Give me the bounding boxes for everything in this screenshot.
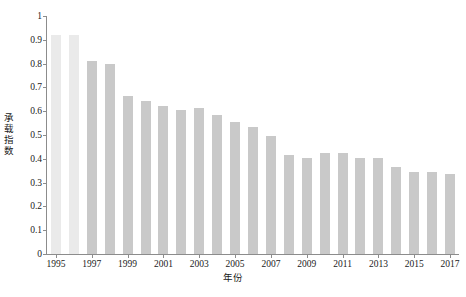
x-tick-label: 1999	[118, 259, 137, 270]
x-tick-mark	[128, 254, 129, 258]
bar	[320, 153, 330, 254]
x-tick-label: 2009	[297, 259, 316, 270]
bar	[176, 110, 186, 254]
y-tick-mark	[43, 87, 47, 88]
bar	[123, 96, 133, 254]
bar	[355, 158, 365, 254]
y-tick-mark	[43, 16, 47, 17]
x-tick-mark	[199, 254, 200, 258]
x-tick-mark	[450, 254, 451, 258]
y-tick-mark	[43, 111, 47, 112]
x-tick-mark	[343, 254, 344, 258]
y-tick-mark	[43, 206, 47, 207]
x-tick-mark	[378, 254, 379, 258]
x-tick-label: 2003	[190, 259, 209, 270]
bar	[194, 108, 204, 254]
y-tick-mark	[43, 159, 47, 160]
y-tick-mark	[43, 183, 47, 184]
bar	[212, 115, 222, 254]
bars-layer	[47, 16, 459, 254]
x-tick-mark	[92, 254, 93, 258]
x-tick-label: 2011	[333, 259, 352, 270]
bar	[158, 106, 168, 254]
x-tick-mark	[271, 254, 272, 258]
bar	[69, 35, 79, 254]
bar	[284, 155, 294, 254]
bar	[338, 153, 348, 254]
bar	[391, 167, 401, 254]
plot-area: 00.10.20.30.40.50.60.70.80.91 1995199719…	[46, 16, 459, 255]
x-tick-label: 2017	[441, 259, 460, 270]
x-tick-label: 2001	[154, 259, 173, 270]
y-tick-mark	[43, 230, 47, 231]
x-tick-mark	[235, 254, 236, 258]
bar	[302, 158, 312, 254]
x-tick-label: 2007	[261, 259, 280, 270]
x-axis-title: 年份	[0, 272, 466, 283]
bar	[427, 172, 437, 254]
bar	[87, 61, 97, 254]
x-tick-label: 2013	[369, 259, 388, 270]
bar	[409, 172, 419, 254]
bar-chart: 承载指数 00.10.20.30.40.50.60.70.80.91 19951…	[0, 0, 466, 297]
bar	[141, 101, 151, 255]
y-tick-mark	[43, 254, 47, 255]
x-tick-mark	[307, 254, 308, 258]
y-tick-mark	[43, 40, 47, 41]
x-tick-mark	[414, 254, 415, 258]
bar	[230, 122, 240, 254]
x-tick-label: 2005	[226, 259, 245, 270]
x-tick-mark	[56, 254, 57, 258]
x-tick-label: 1997	[82, 259, 101, 270]
y-tick-mark	[43, 135, 47, 136]
bar	[445, 174, 455, 254]
x-tick-label: 2015	[405, 259, 424, 270]
y-tick-mark	[43, 64, 47, 65]
bar	[51, 35, 61, 254]
bar	[105, 64, 115, 254]
y-axis-title: 承载指数	[2, 112, 16, 156]
bar	[248, 127, 258, 254]
x-tick-mark	[163, 254, 164, 258]
bar	[373, 158, 383, 254]
x-tick-label: 1995	[46, 259, 65, 270]
bar	[266, 136, 276, 254]
